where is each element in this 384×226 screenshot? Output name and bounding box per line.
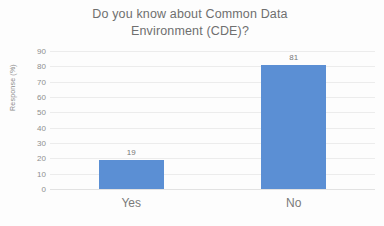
y-tick-label: 40 xyxy=(24,123,46,132)
y-tick-label: 90 xyxy=(24,47,46,56)
y-tick-label: 0 xyxy=(24,185,46,194)
bar-yes[interactable] xyxy=(99,160,164,189)
bar-no[interactable] xyxy=(261,65,326,189)
y-tick-label: 60 xyxy=(24,93,46,102)
bar-chart: Do you know about Common Data Environmen… xyxy=(0,0,384,226)
gridline xyxy=(50,66,375,67)
gridline xyxy=(50,112,375,113)
y-tick-label: 70 xyxy=(24,77,46,86)
bar-value-label: 19 xyxy=(96,148,166,157)
y-tick-label: 20 xyxy=(24,154,46,163)
y-axis-tick-labels: 9080706050403020100 xyxy=(20,51,46,189)
gridline xyxy=(50,189,375,190)
y-tick-label: 50 xyxy=(24,108,46,117)
gridline xyxy=(50,143,375,144)
y-tick-label: 30 xyxy=(24,139,46,148)
plot-area: 1981 xyxy=(50,51,375,189)
x-category-label: No xyxy=(234,196,354,210)
y-axis-title: Response (%) xyxy=(9,52,16,124)
x-category-label: Yes xyxy=(71,196,191,210)
gridline xyxy=(50,82,375,83)
gridline xyxy=(50,128,375,129)
y-tick-label: 10 xyxy=(24,169,46,178)
gridline xyxy=(50,97,375,98)
y-tick-label: 80 xyxy=(24,62,46,71)
bar-value-label: 81 xyxy=(259,53,329,62)
chart-title: Do you know about Common Data Environmen… xyxy=(40,6,340,40)
